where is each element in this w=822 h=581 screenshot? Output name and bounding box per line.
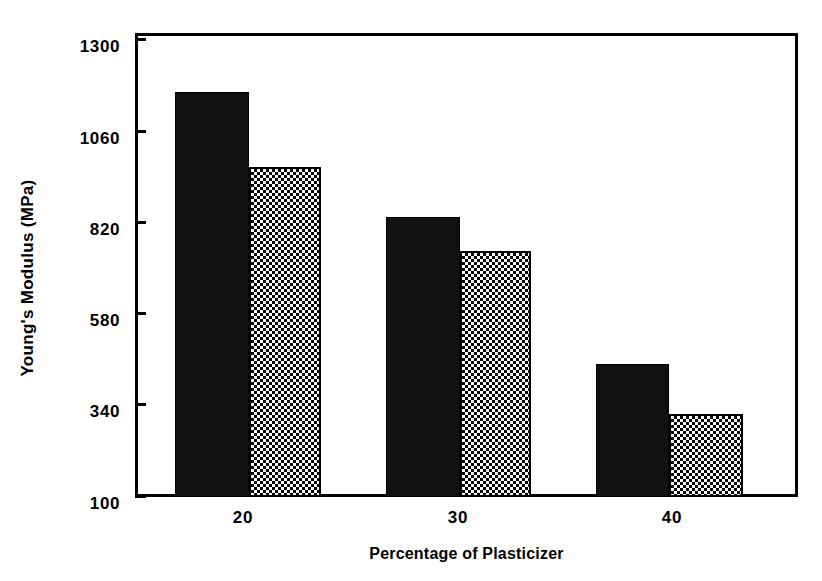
y-tick-mark-580 xyxy=(135,312,146,315)
y-tick-mark-1300 xyxy=(135,38,146,41)
chart-figure: Young's Modulus (MPa) 1300 1060 820 580 … xyxy=(0,0,822,581)
plot-area xyxy=(135,33,798,497)
y-tick-mark-1060 xyxy=(135,130,146,133)
y-axis-title: Young's Modulus (MPa) xyxy=(18,128,38,428)
y-tick-label-1300: 1300 xyxy=(48,38,120,55)
y-tick-label-340: 340 xyxy=(48,403,120,420)
y-tick-mark-820 xyxy=(135,221,146,224)
y-tick-mark-340 xyxy=(135,403,146,406)
y-tick-label-580: 580 xyxy=(48,312,120,329)
y-tick-label-100: 100 xyxy=(48,495,120,512)
y-tick-label-1060: 1060 xyxy=(48,130,120,147)
y-tick-label-820: 820 xyxy=(48,221,120,238)
x-tick-label-40: 40 xyxy=(662,508,683,528)
y-tick-mark-100 xyxy=(135,495,146,498)
x-tick-label-30: 30 xyxy=(448,508,469,528)
x-tick-label-20: 20 xyxy=(233,508,254,528)
x-axis-title: Percentage of Plasticizer xyxy=(135,545,798,563)
